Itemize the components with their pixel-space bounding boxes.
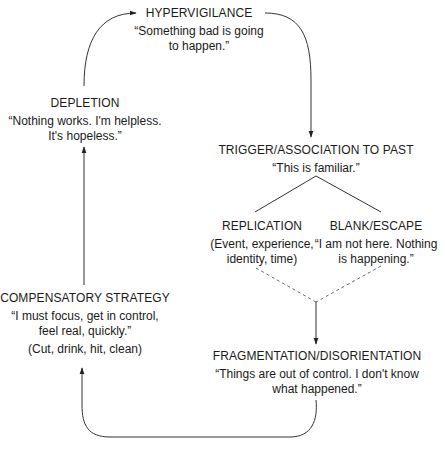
node-title: HYPERVIGILANCE [134,6,263,20]
node-title: COMPENSATORY STRATEGY [0,291,170,305]
edge-trigger-to-blank-escape [316,176,381,212]
node-quote-line: identity, time) [210,252,313,267]
node-quote-line: (Event, experience, [210,237,313,252]
node-quote-line: feel real, quickly.” [0,324,170,339]
node-quote-line: is happening.” [315,252,438,267]
node-quote-line: “Something bad is going [134,24,263,39]
node-trigger: TRIGGER/ASSOCIATION TO PAST “This is fam… [218,143,413,176]
node-quote-line: what happened.” [213,382,422,397]
node-title: DEPLETION [8,96,161,110]
node-blank-escape: BLANK/ESCAPE “I am not here. Nothing is … [315,219,438,266]
node-note: (Cut, drink, hit, clean) [0,342,170,357]
node-quote-line: “Nothing works. I'm helpless. [8,114,161,129]
edge-trigger-to-replication [255,176,316,212]
node-title: BLANK/ESCAPE [315,219,438,233]
node-quote-line: “I am not here. Nothing [315,237,438,252]
node-fragmentation: FRAGMENTATION/DISORIENTATION “Things are… [213,349,422,396]
node-quote-line: “I must focus, get in control, [0,309,170,324]
cycle-diagram: HYPERVIGILANCE “Something bad is going t… [0,0,445,449]
node-compensatory-strategy: COMPENSATORY STRATEGY “I must focus, get… [0,291,170,357]
edge-hypervigilance-to-trigger [265,13,311,137]
node-quote-line: “This is familiar.” [218,161,413,176]
figure-caption-cropped [0,444,445,449]
edge-replication-to-fragmentation [256,268,316,302]
node-quote-line: It's hopeless.” [8,129,161,144]
edge-blank-escape-to-fragmentation [316,266,381,302]
node-quote-line: to happen.” [134,39,263,54]
node-hypervigilance: HYPERVIGILANCE “Something bad is going t… [134,6,263,53]
node-title: TRIGGER/ASSOCIATION TO PAST [218,143,413,157]
node-depletion: DEPLETION “Nothing works. I'm helpless. … [8,96,161,143]
node-quote-line: “Things are out of control. I don't know [213,367,422,382]
node-title: REPLICATION [210,219,313,233]
edge-depletion-to-hypervigilance [84,13,136,86]
node-replication: REPLICATION (Event, experience, identity… [210,219,313,266]
node-title: FRAGMENTATION/DISORIENTATION [213,349,422,363]
